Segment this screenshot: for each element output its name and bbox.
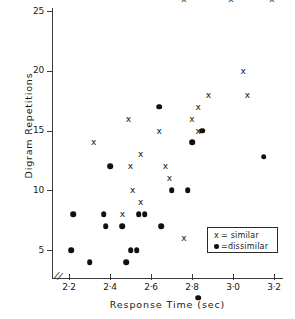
x-tick-0 xyxy=(69,274,70,280)
data-point-dissimilar-7 xyxy=(70,211,76,217)
y-tick-label-5: 5 xyxy=(22,246,44,255)
data-point-similar-16: x xyxy=(128,186,138,195)
data-point-dissimilar-2 xyxy=(189,140,195,146)
data-point-similar-15: x xyxy=(164,174,174,183)
data-point-similar-17: x xyxy=(136,198,146,207)
x-tick-label-5: 3·2 xyxy=(261,283,287,292)
x-tick-label-1: 2·4 xyxy=(97,283,123,292)
x-axis-line xyxy=(52,278,283,279)
data-point-dissimilar-9 xyxy=(136,211,142,217)
data-point-dissimilar-1 xyxy=(199,128,205,134)
data-point-dissimilar-11 xyxy=(103,223,109,229)
legend-label-dissimilar: =dissimilar xyxy=(221,242,268,251)
data-point-similar-6: x xyxy=(193,102,203,111)
legend-item-dissimilar: =dissimilar xyxy=(212,241,277,252)
x-tick-3 xyxy=(192,274,193,280)
dot-marker-icon xyxy=(212,242,221,251)
scatter-plot-figure: // 252015105 2·22·42·62·83·03·2 xxxxxxxx… xyxy=(0,0,295,319)
y-tick-5 xyxy=(47,250,53,251)
y-tick-20 xyxy=(47,71,53,72)
y-axis-title: Digram Repetitions xyxy=(23,46,34,206)
legend-label-similar: = similar xyxy=(221,231,259,240)
y-axis-line xyxy=(52,8,53,279)
data-point-similar-7: x xyxy=(123,114,133,123)
data-point-similar-14: x xyxy=(160,162,170,171)
plot-area: // 252015105 2·22·42·62·83·03·2 xxxxxxxx… xyxy=(0,0,295,319)
data-point-similar-9: x xyxy=(154,126,164,135)
data-point-dissimilar-16 xyxy=(134,247,140,253)
data-point-dissimilar-17 xyxy=(87,259,93,265)
y-tick-label-25: 25 xyxy=(22,7,44,16)
data-point-similar-5: x xyxy=(242,90,252,99)
data-point-dissimilar-14 xyxy=(68,247,74,253)
data-point-similar-11: x xyxy=(89,138,99,147)
data-point-dissimilar-4 xyxy=(107,164,113,170)
legend-item-similar: x = similar xyxy=(212,230,277,241)
x-tick-2 xyxy=(151,274,152,280)
data-point-similar-13: x xyxy=(126,162,136,171)
x-marker-icon: x xyxy=(212,231,221,240)
data-point-dissimilar-18 xyxy=(124,259,130,265)
data-point-similar-2: x xyxy=(267,0,277,4)
data-point-similar-12: x xyxy=(136,150,146,159)
x-tick-label-2: 2·6 xyxy=(138,283,164,292)
x-tick-1 xyxy=(110,274,111,280)
x-tick-4 xyxy=(233,274,234,280)
data-point-similar-18: x xyxy=(117,210,127,219)
data-point-similar-19: x xyxy=(179,234,189,243)
data-point-similar-8: x xyxy=(187,114,197,123)
data-point-dissimilar-10 xyxy=(142,211,148,217)
x-axis-title: Response Time (sec) xyxy=(52,299,283,310)
legend-box: x = similar =dissimilar xyxy=(207,227,278,253)
x-tick-label-4: 3·0 xyxy=(220,283,246,292)
data-point-dissimilar-0 xyxy=(156,104,162,110)
data-point-dissimilar-8 xyxy=(101,211,107,217)
data-point-dissimilar-12 xyxy=(120,223,126,229)
x-tick-label-3: 2·8 xyxy=(179,283,205,292)
y-tick-25 xyxy=(47,11,53,12)
x-axis-break-marker: // xyxy=(53,270,63,282)
y-tick-15 xyxy=(47,131,53,132)
data-point-similar-3: x xyxy=(238,66,248,75)
data-point-similar-1: x xyxy=(226,0,236,4)
data-point-dissimilar-6 xyxy=(185,187,191,193)
y-tick-10 xyxy=(47,190,53,191)
data-point-dissimilar-3 xyxy=(261,154,267,160)
data-point-similar-0: x xyxy=(179,0,189,4)
data-point-dissimilar-13 xyxy=(158,223,164,229)
data-point-similar-4: x xyxy=(203,90,213,99)
x-tick-label-0: 2·2 xyxy=(56,283,82,292)
data-point-dissimilar-5 xyxy=(169,187,175,193)
x-tick-5 xyxy=(274,274,275,280)
data-point-dissimilar-15 xyxy=(128,247,134,253)
